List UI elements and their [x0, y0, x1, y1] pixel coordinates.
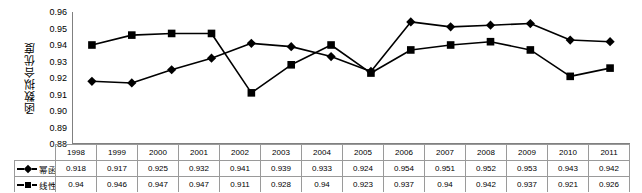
x-axis-category-label: 2009 [507, 145, 548, 161]
legend-marker-square-icon [25, 182, 31, 188]
data-point-square [327, 41, 335, 49]
y-axis-tick-label: 0.91 [49, 90, 67, 99]
table-value-cell: 0.943 [548, 161, 589, 177]
table-value-cell: 0.939 [261, 161, 302, 177]
data-point-square [527, 46, 535, 54]
data-point-square [566, 73, 574, 81]
data-point-diamond [326, 52, 335, 61]
data-point-diamond [87, 77, 96, 86]
x-axis-category-label: 2007 [425, 145, 466, 161]
table-value-cell: 0.951 [425, 161, 466, 177]
table-value-cell: 0.942 [589, 161, 630, 177]
y-axis-tick-label: 0.93 [49, 57, 67, 66]
y-axis-tick-labels: 0.960.950.940.930.920.910.900.890.88 [38, 8, 70, 144]
table-value-cell: 0.94 [56, 177, 97, 193]
table-value-cell: 0.942 [466, 177, 507, 193]
data-point-square [447, 41, 455, 49]
chart-data-table: 1998199920002001200220032004200520062007… [14, 144, 630, 192]
x-axis-category-label: 2006 [384, 145, 425, 161]
legend-line-segment [32, 168, 37, 170]
data-point-square [248, 89, 256, 97]
table-value-cell: 0.925 [138, 161, 179, 177]
data-point-square [168, 30, 176, 38]
table-value-cell: 0.954 [384, 161, 425, 177]
data-point-square [287, 61, 295, 69]
chart-container: 函数拟合优度 0.960.950.940.930.920.910.900.890… [0, 0, 642, 192]
data-point-square [487, 38, 495, 46]
table-value-cell: 0.946 [97, 177, 138, 193]
table-value-cell: 0.947 [179, 177, 220, 193]
table-value-cell: 0.94 [302, 177, 343, 193]
table-value-cell: 0.933 [302, 161, 343, 177]
table-value-cell: 0.94 [425, 177, 466, 193]
table-corner-cell [15, 145, 56, 161]
table-value-cell: 0.926 [589, 177, 630, 193]
x-axis-category-label: 2010 [548, 145, 589, 161]
table-value-cell: 0.937 [384, 177, 425, 193]
data-point-square [367, 69, 375, 77]
table-value-cell: 0.921 [548, 177, 589, 193]
y-axis-tick-label: 0.95 [49, 24, 67, 33]
x-axis-category-label: 2011 [589, 145, 630, 161]
table-value-cell: 0.918 [56, 161, 97, 177]
table-value-cell: 0.937 [507, 177, 548, 193]
data-point-diamond [566, 35, 575, 44]
legend-entry-2[interactable]: 线性函数 [15, 177, 56, 193]
legend-line-segment [17, 184, 24, 186]
table-value-cell: 0.917 [97, 161, 138, 177]
data-point-diamond [446, 22, 455, 31]
table-value-cell: 0.953 [507, 161, 548, 177]
table-value-cell: 0.911 [220, 177, 261, 193]
data-point-diamond [605, 37, 614, 46]
legend-label: 幂函数 [39, 163, 56, 175]
y-axis-tick-label: 0.89 [49, 123, 67, 132]
legend-marker-diamond-icon [24, 164, 32, 172]
table-row: 线性函数0.940.9460.9470.9470.9110.9280.940.9… [15, 177, 630, 193]
x-axis-category-label: 2005 [343, 145, 384, 161]
x-axis-category-label: 2003 [261, 145, 302, 161]
plot-area [72, 12, 630, 144]
y-axis-tick-label: 0.92 [49, 74, 67, 83]
x-axis-category-label: 2000 [138, 145, 179, 161]
data-point-square [407, 46, 415, 54]
table-value-cell: 0.941 [220, 161, 261, 177]
x-axis-category-label: 2001 [179, 145, 220, 161]
data-point-diamond [127, 78, 136, 87]
data-point-square [128, 31, 136, 39]
x-axis-category-label: 1998 [56, 145, 97, 161]
data-point-diamond [167, 65, 176, 74]
table-value-cell: 0.952 [466, 161, 507, 177]
legend-entry-1[interactable]: 幂函数 [15, 161, 56, 177]
table-value-cell: 0.947 [138, 177, 179, 193]
table-row: 幂函数0.9180.9170.9250.9320.9410.9390.9330.… [15, 161, 630, 177]
legend-label: 线性函数 [39, 179, 56, 191]
plot-svg [72, 12, 630, 144]
table-value-cell: 0.932 [179, 161, 220, 177]
x-axis-category-label: 2002 [220, 145, 261, 161]
legend-key: 幂函数 [17, 163, 56, 175]
x-axis-category-label: 2008 [466, 145, 507, 161]
table-value-cell: 0.923 [343, 177, 384, 193]
data-point-square [88, 41, 96, 49]
table-header-row: 1998199920002001200220032004200520062007… [15, 145, 630, 161]
legend-key: 线性函数 [17, 179, 56, 191]
data-point-square [208, 30, 216, 38]
data-point-square [606, 64, 614, 72]
data-point-diamond [287, 42, 296, 51]
table-value-cell: 0.924 [343, 161, 384, 177]
x-axis-category-label: 1999 [97, 145, 138, 161]
x-axis-category-label: 2004 [302, 145, 343, 161]
table-value-cell: 0.928 [261, 177, 302, 193]
data-point-diamond [247, 39, 256, 48]
legend-line-segment [32, 184, 37, 186]
data-point-diamond [207, 54, 216, 63]
y-axis-tick-label: 0.90 [49, 107, 67, 116]
data-point-diamond [486, 21, 495, 30]
y-axis-tick-label: 0.94 [49, 41, 67, 50]
series-1 [87, 17, 614, 87]
y-axis-tick-label: 0.96 [49, 8, 67, 17]
data-point-diamond [526, 19, 535, 28]
chart-data-table-body: 1998199920002001200220032004200520062007… [15, 145, 630, 193]
